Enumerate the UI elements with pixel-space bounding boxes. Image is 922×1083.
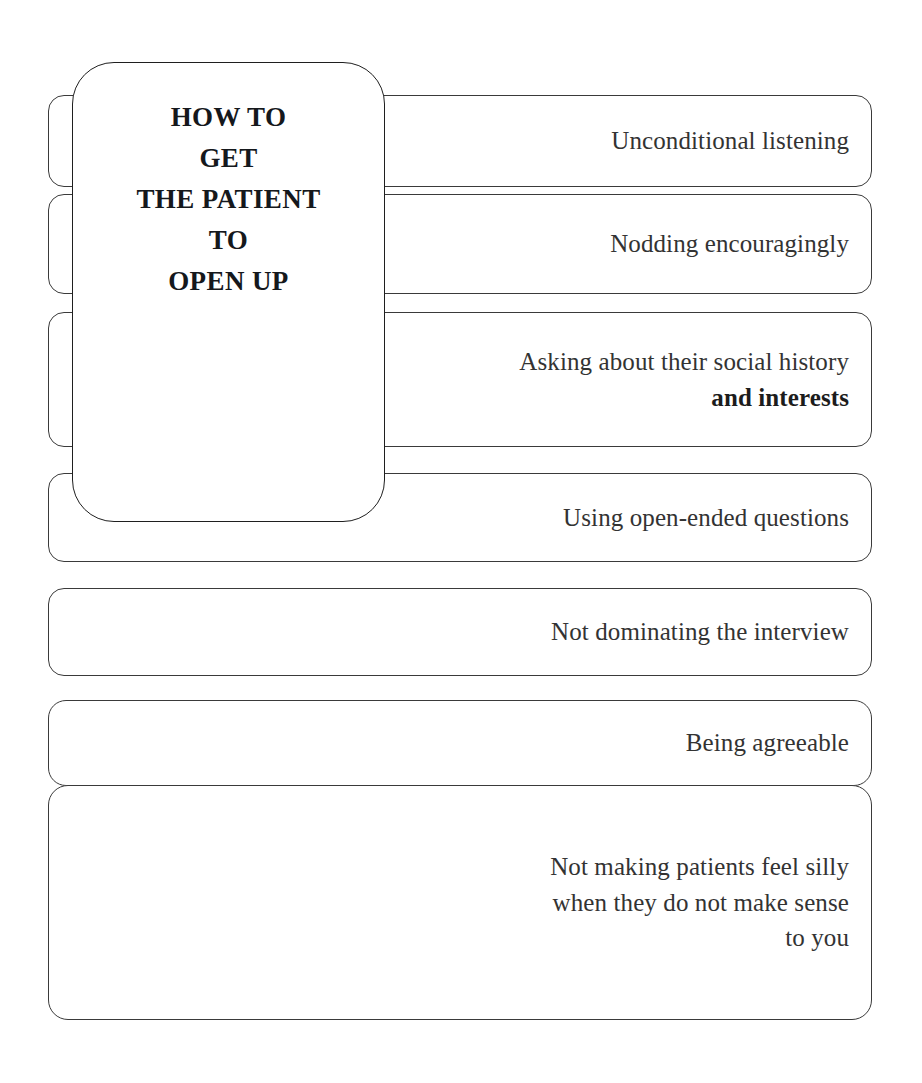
mindmap-diagram: Unconditional listening Nodding encourag… <box>0 0 922 1083</box>
branch-line: Asking about their social history <box>519 344 849 380</box>
central-topic-box: HOW TO GET THE PATIENT TO OPEN UP <box>72 62 385 522</box>
central-title-line: TO <box>209 220 248 261</box>
central-title-line: OPEN UP <box>168 261 289 302</box>
branch-box-not-dominating-the-interview: Not dominating the interview <box>48 588 872 676</box>
branch-line: to you <box>785 920 849 956</box>
branch-line: Using open-ended questions <box>563 500 849 536</box>
central-title-line: THE PATIENT <box>136 179 320 220</box>
central-title-line: HOW TO <box>171 97 287 138</box>
branch-line: Nodding encouragingly <box>610 226 849 262</box>
branch-box-being-agreeable: Being agreeable <box>48 700 872 786</box>
branch-line: Not making patients feel silly <box>550 849 849 885</box>
branch-line-emphasis: and interests <box>711 380 849 416</box>
branch-line: Not dominating the interview <box>551 614 849 650</box>
branch-line: Being agreeable <box>686 725 849 761</box>
branch-line: Unconditional listening <box>611 123 849 159</box>
branch-line: when they do not make sense <box>553 885 849 921</box>
branch-box-not-making-patients-feel-silly: Not making patients feel silly when they… <box>48 785 872 1020</box>
central-title-line: GET <box>199 138 257 179</box>
